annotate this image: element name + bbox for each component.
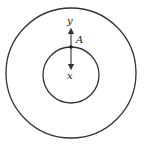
- concentric-circles-diagram: y A x: [0, 0, 147, 146]
- label-a: A: [75, 34, 83, 45]
- label-y: y: [66, 15, 73, 26]
- label-x: x: [67, 70, 73, 81]
- point-a-dot: [69, 45, 73, 49]
